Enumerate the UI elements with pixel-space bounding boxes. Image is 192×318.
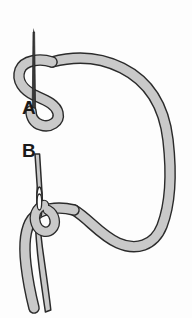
stitch-diagram: A B [0, 0, 192, 318]
label-b: B [22, 140, 36, 161]
diagram-canvas: A B [0, 0, 192, 318]
needle-eye-opening [37, 194, 42, 210]
label-a: A [22, 97, 36, 118]
